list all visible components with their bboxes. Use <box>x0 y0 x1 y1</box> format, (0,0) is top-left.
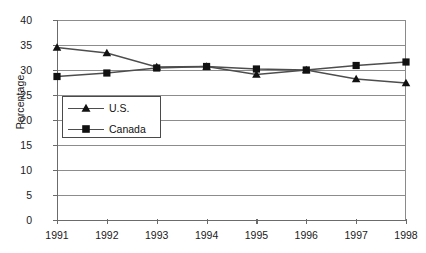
y-tick-label-0: 0 <box>0 214 32 226</box>
legend-label: U.S. <box>109 102 129 114</box>
x-tick-label-1993: 1993 <box>134 229 180 241</box>
data-point-marker <box>353 62 360 69</box>
x-tick-label-1996: 1996 <box>283 229 329 241</box>
y-tick-label-40: 40 <box>0 14 32 26</box>
y-tick-label-5: 5 <box>0 189 32 201</box>
y-tick-label-20: 20 <box>0 114 32 126</box>
y-tick-label-25: 25 <box>0 89 32 101</box>
legend: U.S.Canada <box>62 96 161 138</box>
y-tick-label-10: 10 <box>0 164 32 176</box>
data-point-marker <box>103 69 110 76</box>
triangle-marker-icon <box>68 100 104 116</box>
x-tick-label-1997: 1997 <box>333 229 379 241</box>
x-tick-label-1994: 1994 <box>184 229 230 241</box>
gridline-0 <box>57 220 406 221</box>
legend-item-canada[interactable]: Canada <box>63 118 160 139</box>
data-point-marker <box>303 66 310 73</box>
line-chart: Percentage 4035302520151050 199119921993… <box>0 0 426 253</box>
legend-label: Canada <box>109 123 146 135</box>
data-point-marker <box>402 58 409 65</box>
x-tick-label-1995: 1995 <box>233 229 279 241</box>
data-point-marker <box>53 73 60 80</box>
y-tick-label-15: 15 <box>0 139 32 151</box>
y-tick-label-30: 30 <box>0 64 32 76</box>
x-tick-label-1998: 1998 <box>383 229 426 241</box>
data-point-marker <box>203 63 210 70</box>
x-tick-label-1991: 1991 <box>34 229 80 241</box>
y-tick-label-35: 35 <box>0 39 32 51</box>
square-marker-icon <box>68 121 104 137</box>
x-tick-label-1992: 1992 <box>84 229 130 241</box>
data-point-marker <box>153 64 160 71</box>
legend-item-u-s[interactable]: U.S. <box>63 97 160 118</box>
data-point-marker <box>253 65 260 72</box>
x-tick-mark-1998 <box>406 219 407 224</box>
